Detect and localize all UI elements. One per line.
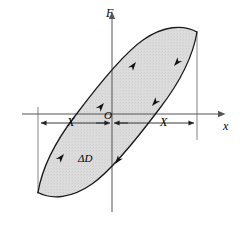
axis-label-force: F: [106, 7, 113, 19]
hysteresis-loop-fill: [38, 27, 197, 196]
dimension-label-right: X: [160, 116, 167, 128]
axis-label-displacement: x: [223, 120, 228, 132]
hysteresis-diagram-figure: F x O X X ΔD: [0, 0, 243, 227]
area-label-delta-d: ΔD: [78, 153, 92, 164]
dimension-label-left: X: [67, 116, 74, 128]
origin-label: O: [104, 110, 112, 121]
diagram-canvas: [0, 0, 243, 227]
